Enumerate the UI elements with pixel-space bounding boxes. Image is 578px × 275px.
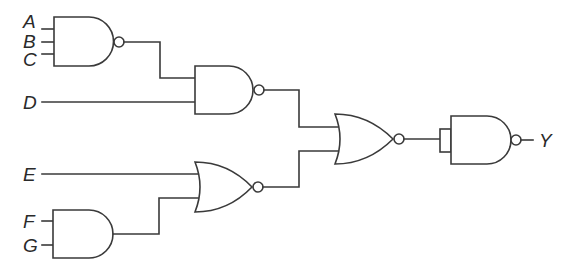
nand-gate-output — [440, 116, 533, 164]
nand-gate-2 — [195, 66, 338, 127]
logic-circuit-diagram: A B C D E F G Y — [0, 0, 578, 275]
nor-gate-5 — [335, 114, 440, 164]
input-label-c: C — [23, 50, 37, 69]
inverter-bubble-2 — [254, 85, 264, 95]
inverter-bubble-4 — [253, 182, 263, 192]
wire-g3-to-g4 — [113, 198, 198, 234]
tied-input-junction — [440, 129, 451, 152]
wire-g4-to-g5 — [263, 151, 338, 187]
inverter-bubble-6 — [511, 135, 521, 145]
wire-g1-to-g2 — [124, 42, 195, 78]
nor-body-4 — [195, 162, 252, 212]
input-label-f: F — [23, 212, 35, 231]
inverter-bubble-1 — [114, 37, 124, 47]
input-label-d: D — [23, 93, 37, 112]
nand-body-6 — [451, 116, 511, 164]
nor-gate-4 — [195, 151, 338, 212]
input-label-e: E — [23, 165, 36, 184]
nand-body-1 — [54, 17, 114, 66]
inverter-bubble-5 — [394, 134, 404, 144]
and-body — [53, 210, 113, 258]
input-label-g: G — [23, 236, 38, 255]
nor-body-5 — [335, 114, 393, 164]
output-label-y: Y — [539, 131, 552, 150]
input-label-a: A — [23, 12, 36, 31]
nand-gate-abc — [42, 17, 195, 78]
nand-body-2 — [195, 66, 253, 114]
and-gate-fg — [42, 198, 198, 258]
wire-g2-to-g5 — [264, 90, 338, 127]
circuit-drawing — [0, 0, 578, 275]
